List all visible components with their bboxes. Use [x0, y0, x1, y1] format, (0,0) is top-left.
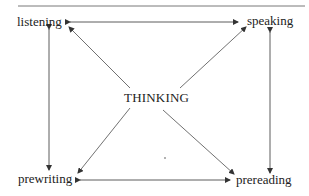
center-label-thinking: THINKING	[124, 91, 189, 105]
arrow-thinking-prewriting	[78, 108, 130, 173]
node-prewriting: prewriting	[18, 172, 72, 186]
node-prereading: prereading	[236, 173, 292, 187]
arrow-thinking-prereading	[163, 110, 234, 174]
arrow-thinking-listening	[69, 27, 130, 88]
node-speaking: speaking	[247, 14, 293, 28]
arrow-thinking-speaking	[180, 27, 246, 88]
node-listening: listening	[17, 15, 62, 29]
stray-dot	[164, 157, 166, 159]
